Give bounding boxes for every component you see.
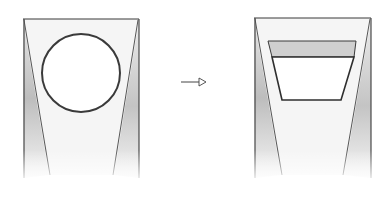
panel-before (20, 19, 144, 185)
diagram-canvas: Sketch showing a transformation: a taper… (0, 0, 390, 198)
panel-after (250, 18, 376, 185)
arrow-icon (181, 78, 206, 86)
opening-top-band (268, 41, 356, 57)
transformation-diagram (0, 0, 390, 198)
trapezoidal-opening (272, 57, 354, 100)
circular-opening (42, 34, 120, 112)
